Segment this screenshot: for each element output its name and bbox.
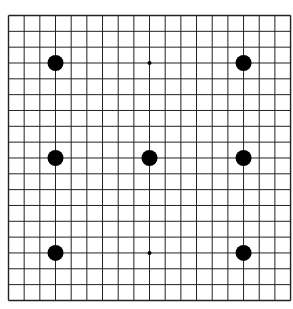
black-stone[interactable] — [48, 245, 64, 261]
black-stone[interactable] — [48, 150, 64, 166]
star-point-marker — [148, 251, 152, 255]
black-stone[interactable] — [236, 150, 252, 166]
star-point-marker — [148, 61, 152, 65]
go-board[interactable] — [0, 0, 293, 309]
black-stone[interactable] — [236, 245, 252, 261]
black-stone[interactable] — [48, 55, 64, 71]
black-stone[interactable] — [236, 55, 252, 71]
black-stone[interactable] — [142, 150, 158, 166]
